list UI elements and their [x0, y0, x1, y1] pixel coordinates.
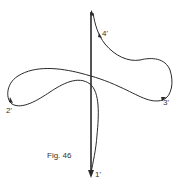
arrow-marker-2-icon	[9, 97, 13, 103]
trajectory-curve	[8, 13, 172, 173]
label-4: 4'	[102, 29, 108, 38]
figure-diagram: 4' 2' 3' 1' Fig. 46	[0, 0, 181, 190]
label-3: 3'	[163, 98, 169, 107]
figure-caption: Fig. 46	[47, 151, 72, 160]
label-1: 1'	[95, 170, 101, 179]
label-2: 2'	[6, 106, 12, 115]
